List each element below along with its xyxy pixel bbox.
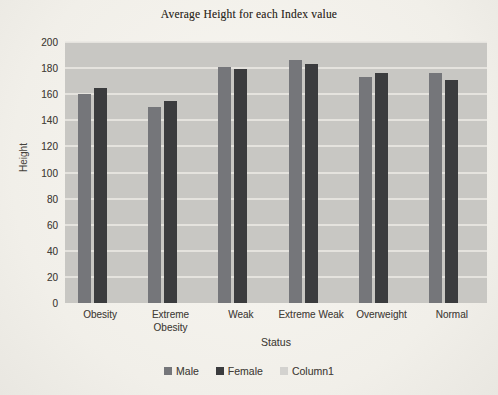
y-tick-label-140: 140 (41, 115, 58, 126)
y-tick-label-0: 0 (52, 298, 58, 309)
gridline-100 (65, 172, 487, 174)
gridline-200 (65, 41, 487, 43)
y-tick-label-100: 100 (41, 168, 58, 179)
bar-male-overweight (359, 77, 372, 303)
y-tick-label-120: 120 (41, 141, 58, 152)
gridline-160 (65, 93, 487, 95)
gridline-80 (65, 198, 487, 200)
x-category-label-extreme-obesity: Extreme Obesity (137, 308, 205, 334)
bar-male-obesity (78, 94, 91, 303)
legend-item-female: Female (216, 365, 263, 377)
chart-screenshot: Average Height for each Index value Heig… (0, 0, 498, 395)
x-category-label-overweight: Overweight (348, 308, 416, 321)
y-tick-label-60: 60 (47, 220, 58, 231)
chart-title: Average Height for each Index value (0, 8, 498, 20)
bar-female-extreme-weak (305, 64, 318, 303)
bar-female-obesity (94, 88, 107, 303)
legend-label-female: Female (228, 365, 263, 377)
bar-male-extreme-weak (289, 60, 302, 303)
bar-female-weak (234, 69, 247, 303)
y-tick-label-80: 80 (47, 194, 58, 205)
gridline-20 (65, 276, 487, 278)
x-axis-category-labels: ObesityExtreme ObesityWeakExtreme WeakOv… (65, 308, 487, 336)
bar-female-extreme-obesity (164, 101, 177, 303)
legend-item-male: Male (164, 365, 199, 377)
x-axis-title: Status (65, 336, 487, 348)
y-axis-ticks: 020406080100120140160180200 (0, 42, 58, 303)
x-category-label-extreme-weak: Extreme Weak (277, 308, 345, 321)
legend: MaleFemaleColumn1 (0, 365, 498, 377)
legend-label-column1: Column1 (292, 365, 334, 377)
legend-swatch-male (164, 367, 172, 375)
x-category-label-normal: Normal (418, 308, 486, 321)
x-category-label-obesity: Obesity (66, 308, 134, 321)
y-tick-label-180: 180 (41, 63, 58, 74)
x-category-label-weak: Weak (207, 308, 275, 321)
legend-label-male: Male (176, 365, 199, 377)
legend-swatch-column1 (280, 367, 288, 375)
y-tick-label-20: 20 (47, 272, 58, 283)
legend-item-column1: Column1 (280, 365, 334, 377)
gridline-180 (65, 67, 487, 69)
y-tick-label-160: 160 (41, 89, 58, 100)
legend-swatch-female (216, 367, 224, 375)
plot-area (65, 42, 487, 303)
y-tick-label-40: 40 (47, 246, 58, 257)
bar-male-extreme-obesity (148, 107, 161, 303)
y-tick-label-200: 200 (41, 37, 58, 48)
bar-male-normal (429, 73, 442, 303)
gridline-120 (65, 145, 487, 147)
gridline-60 (65, 224, 487, 226)
gridline-40 (65, 250, 487, 252)
gridline-140 (65, 119, 487, 121)
bar-male-weak (218, 67, 231, 303)
bar-female-normal (445, 80, 458, 303)
bar-female-overweight (375, 73, 388, 303)
